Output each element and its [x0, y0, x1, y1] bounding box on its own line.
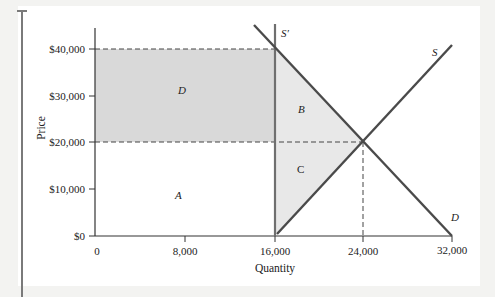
region-label-d: D	[177, 84, 186, 96]
x-tick-label: 24,000	[348, 245, 379, 257]
y-tick-label: $20,000	[49, 136, 85, 148]
region-label-a: A	[174, 189, 182, 201]
y-tick-label: $40,000	[49, 43, 85, 55]
x-axis-title: Quantity	[255, 262, 295, 275]
region-label-c: C	[297, 163, 304, 175]
y-tick-label: $0	[74, 230, 86, 242]
x-tick-label: 16,000	[260, 245, 291, 257]
x-tick-label: 32,000	[437, 244, 468, 256]
supply-demand-chart: $40,000 $30,000 $20,000 $10,000 $0 0 8,0…	[0, 0, 495, 297]
region-label-b: B	[298, 103, 305, 115]
y-axis-title: Price	[35, 116, 47, 140]
y-tick-label: $10,000	[49, 183, 85, 195]
curve-label-s: S	[432, 46, 438, 58]
x-tick-label: 0	[94, 245, 100, 257]
curve-label-d: D	[450, 211, 459, 223]
y-tick-label: $30,000	[49, 90, 85, 102]
curve-label-s-prime: S′	[281, 27, 290, 39]
x-tick-label: 8,000	[173, 245, 198, 257]
page-background: $40,000 $30,000 $20,000 $10,000 $0 0 8,0…	[0, 0, 495, 297]
